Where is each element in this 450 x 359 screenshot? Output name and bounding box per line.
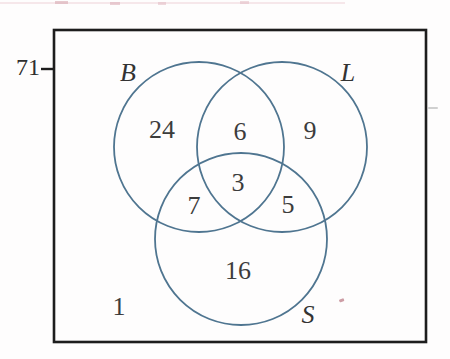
scan-speck-pink: [339, 298, 345, 303]
set-label-l: L: [340, 58, 355, 87]
scan-speck: [158, 2, 166, 5]
set-label-s: S: [302, 300, 315, 329]
region-count-b-only: 24: [149, 115, 175, 144]
scan-streak: [0, 2, 345, 4]
venn-figure: 71 B L S 24 6 9 3 7 5 16 1: [0, 0, 450, 359]
scan-artifact-streak: [0, 1, 345, 5]
scan-speck: [55, 1, 68, 4]
set-label-b: B: [120, 58, 136, 87]
scan-speck-gray: [428, 107, 438, 109]
scan-speck: [240, 1, 249, 4]
region-count-b-and-s: 7: [188, 191, 201, 220]
region-count-l-and-s: 5: [282, 190, 295, 219]
region-count-b-l-s: 3: [232, 168, 245, 197]
universe-total-label: 71: [16, 54, 40, 80]
region-count-s-only: 16: [225, 256, 251, 285]
scan-speck: [110, 2, 120, 5]
region-count-outside-circles: 1: [113, 292, 126, 321]
region-count-l-only: 9: [304, 116, 317, 145]
venn-diagram-svg: 71 B L S 24 6 9 3 7 5 16 1: [0, 0, 450, 359]
region-count-b-and-l: 6: [234, 117, 247, 146]
